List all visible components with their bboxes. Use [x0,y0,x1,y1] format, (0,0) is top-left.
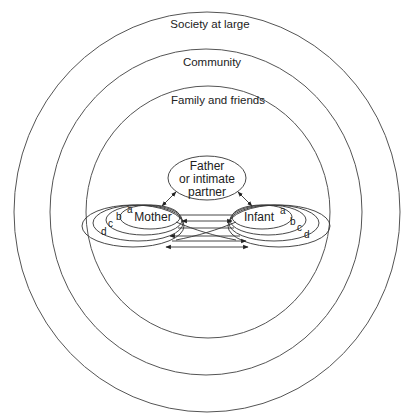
mother-loops: Mother a b c d [82,204,184,247]
father-label-3: partner [188,185,226,199]
mother-letter-b: b [116,211,122,222]
mother-letter-d: d [101,226,107,237]
infant-letter-a: a [280,205,286,216]
infant-letter-c: c [297,222,302,233]
infant-letter-d: d [304,229,310,240]
diagram-canvas: Society at large Community Family and fr… [0,0,407,416]
ring-society [14,12,400,412]
infant-letter-b: b [290,216,296,227]
node-father: Father or intimate partner [168,156,246,200]
mother-letter-c: c [108,218,113,229]
link-cross-2 [176,222,236,240]
mother-label: Mother [134,210,171,224]
edge-father-infant [238,192,252,206]
mother-letter-a: a [127,204,133,215]
father-label-2: or intimate [179,172,235,186]
infant-label: Infant [244,210,275,224]
ring-label-community: Community [183,56,241,68]
link-cross-1 [176,222,236,240]
edge-father-mother [162,192,176,206]
ring-label-society: Society at large [170,18,249,30]
ring-label-family: Family and friends [171,94,265,106]
father-label-1: Father [190,159,225,173]
